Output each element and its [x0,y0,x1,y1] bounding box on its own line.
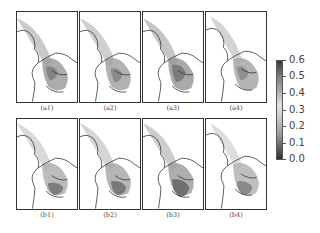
panel-label-b3: (b3) [142,211,204,219]
map-panel-b1 [16,118,78,210]
map-shading [206,119,266,209]
colorbar-tick [283,76,286,77]
map-panel-b2 [79,118,141,210]
map-shading [143,119,203,209]
panel-label-a4: (a4) [205,104,267,112]
colorbar-tick-label: 0.1 [289,138,305,148]
colorbar-tick-label: 0.3 [289,105,305,115]
map-panel-a2 [79,11,141,103]
map-panel-a4 [205,11,267,103]
map-shading [206,12,266,102]
map-shading [80,12,140,102]
panel-label-a1: (a1) [16,104,78,112]
map-panel-a1 [16,11,78,103]
panel-label-a2: (a2) [79,104,141,112]
map-shading [143,12,203,102]
map-panel-a3 [142,11,204,103]
colorbar [276,60,283,160]
colorbar-tick [283,126,286,127]
map-panel-b3 [142,118,204,210]
map-shading [80,119,140,209]
panel-label-b2: (b2) [79,211,141,219]
colorbar-tick [283,110,286,111]
panel-label-b4: (b4) [205,211,267,219]
colorbar-tick-label: 0.0 [289,154,305,164]
colorbar-tick [283,93,286,94]
colorbar-tick [283,159,286,160]
panel-label-b1: (b1) [16,211,78,219]
colorbar-tick [283,60,286,61]
colorbar-tick-label: 0.5 [289,71,305,81]
map-shading [17,12,77,102]
panel-label-a3: (a3) [142,104,204,112]
colorbar-tick-label: 0.4 [289,88,305,98]
colorbar-tick [283,143,286,144]
map-shading [17,119,77,209]
map-panel-b4 [205,118,267,210]
colorbar-tick-label: 0.2 [289,121,305,131]
colorbar-tick-label: 0.6 [289,55,305,65]
